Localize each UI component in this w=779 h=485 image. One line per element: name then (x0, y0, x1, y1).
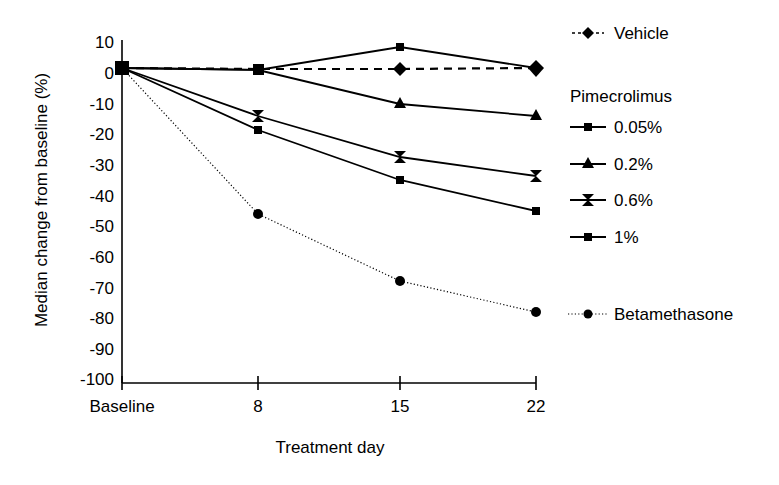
legend-marker-vehicle (582, 27, 594, 39)
legend-label-pimecrolimus: Pimecrolimus (570, 88, 672, 105)
series-line-vehicle (122, 68, 536, 69)
data-point-cluster-baseline (115, 61, 129, 75)
data-point-vehicle-day15 (393, 62, 407, 76)
data-point-1pct-day22 (532, 207, 540, 215)
data-point-betamethasone-day22 (531, 307, 541, 317)
legend-label-06pct: 0.6% (614, 192, 653, 209)
chart-figure: Median change from baseline (%) 10 0 -10… (0, 0, 779, 485)
series-line-pimecrolimus-005pct (122, 47, 536, 70)
legend-label-1pct: 1% (614, 229, 639, 246)
series-line-pimecrolimus-06pct (122, 68, 536, 176)
legend-label-005pct: 0.05% (614, 119, 662, 136)
data-point-02pct-day22 (530, 109, 542, 120)
legend-marker-02pct (582, 157, 594, 168)
legend-label-betamethasone: Betamethasone (614, 306, 733, 323)
legend-label-02pct: 0.2% (614, 156, 653, 173)
legend-label-vehicle: Vehicle (614, 25, 669, 42)
data-point-1pct-day15 (396, 176, 404, 184)
data-point-06pct-day8 (252, 110, 264, 122)
data-point-vehicle-day22 (528, 60, 544, 77)
legend-marker-betamethasone (584, 310, 593, 319)
plot-canvas (0, 0, 779, 485)
series-line-pimecrolimus-02pct (122, 68, 536, 116)
legend-marker-1pct (584, 233, 592, 241)
series-line-betamethasone (122, 68, 536, 312)
data-point-cluster-day8 (253, 64, 264, 75)
data-point-betamethasone-day15 (395, 276, 405, 286)
data-point-005pct-day15 (396, 43, 404, 51)
data-point-betamethasone-day8 (253, 209, 263, 219)
legend-marker-005pct (584, 123, 592, 131)
data-point-1pct-day8 (254, 126, 262, 134)
